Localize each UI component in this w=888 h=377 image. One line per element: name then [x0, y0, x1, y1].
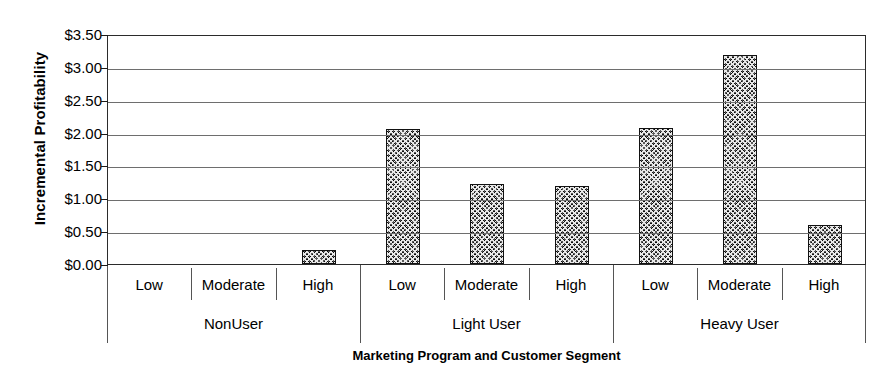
bar — [470, 184, 504, 264]
y-axis-tick-mark — [101, 232, 108, 233]
category-separator — [782, 268, 783, 300]
category-separator — [191, 268, 192, 300]
plot-area — [107, 35, 866, 265]
bar — [386, 129, 420, 264]
y-axis-tick-label: $0.50 — [40, 224, 102, 239]
x-axis-group-label: NonUser — [107, 303, 360, 343]
bar-slot — [192, 36, 276, 264]
category-label-band: LowModerateHighLowModerateHighLowModerat… — [107, 265, 866, 303]
y-axis-tick-mark — [101, 35, 108, 36]
x-axis-category-label: Moderate — [444, 265, 528, 303]
bar-slot — [361, 36, 445, 264]
x-axis-category-label: Low — [613, 265, 697, 303]
group-label-band: NonUserLight UserHeavy User — [107, 303, 866, 343]
y-axis-tick-mark — [101, 166, 108, 167]
group-separator — [613, 265, 614, 343]
gridline — [108, 200, 865, 201]
x-axis-group-label: Heavy User — [613, 303, 866, 343]
category-separator — [276, 268, 277, 300]
gridline — [108, 102, 865, 103]
x-axis-category-label: Low — [360, 265, 444, 303]
y-axis-tick-label: $2.00 — [40, 126, 102, 141]
bar-slot — [614, 36, 698, 264]
x-axis-group-label: Light User — [360, 303, 613, 343]
y-axis-tick-mark — [101, 134, 108, 135]
category-separator — [529, 268, 530, 300]
category-separator — [444, 268, 445, 300]
group-separator — [360, 265, 361, 343]
y-axis-tick-mark — [101, 68, 108, 69]
y-axis-tick-labels: $0.00$0.50$1.00$1.50$2.00$2.50$3.00$3.50 — [40, 0, 102, 377]
x-axis-category-label: High — [276, 265, 360, 303]
bar-slot — [783, 36, 867, 264]
x-axis-category-label: High — [529, 265, 613, 303]
y-axis-tick-mark — [101, 199, 108, 200]
bar-slot — [277, 36, 361, 264]
x-axis-category-label: Moderate — [191, 265, 275, 303]
bar — [555, 186, 589, 264]
y-axis-tick-label: $2.50 — [40, 93, 102, 108]
category-separator — [697, 268, 698, 300]
y-axis-tick-mark — [101, 265, 108, 266]
y-axis-tick-label: $3.00 — [40, 60, 102, 75]
gridline — [108, 233, 865, 234]
y-axis-tick-label: $1.00 — [40, 191, 102, 206]
bar — [639, 128, 673, 264]
y-axis-tick-mark — [101, 101, 108, 102]
bar-slot — [445, 36, 529, 264]
bar-slot — [698, 36, 782, 264]
x-axis-category-label: Low — [107, 265, 191, 303]
gridline — [108, 69, 865, 70]
bar-series — [108, 36, 865, 264]
y-axis-tick-label: $3.50 — [40, 27, 102, 42]
bar — [808, 225, 842, 264]
chart-figure: Incremental Profitability $0.00$0.50$1.0… — [0, 0, 888, 377]
x-axis-title: Marketing Program and Customer Segment — [107, 348, 866, 363]
gridline — [108, 167, 865, 168]
y-axis-tick-label: $0.00 — [40, 257, 102, 272]
x-axis-category-label: Moderate — [697, 265, 781, 303]
bar-slot — [530, 36, 614, 264]
x-axis-category-label: High — [782, 265, 866, 303]
bar — [302, 250, 336, 264]
bar-slot — [108, 36, 192, 264]
gridline — [108, 135, 865, 136]
y-axis-tick-label: $1.50 — [40, 158, 102, 173]
